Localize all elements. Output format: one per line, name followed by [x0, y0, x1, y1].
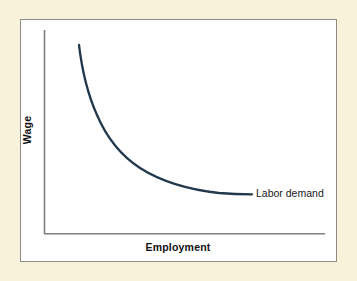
labor-demand-curve — [79, 45, 252, 194]
plot-canvas — [0, 0, 357, 281]
x-axis-title: Employment — [118, 241, 238, 253]
labor-demand-series-label: Labor demand — [256, 187, 324, 199]
figure-root: Wage Employment Labor demand — [0, 0, 357, 281]
y-axis-title: Wage — [20, 90, 34, 170]
